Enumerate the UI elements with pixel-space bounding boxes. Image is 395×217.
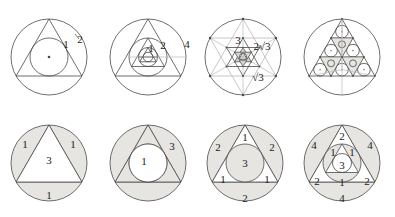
figure-label-circumradius: 2 xyxy=(77,33,83,45)
vertex-dot xyxy=(242,18,244,20)
figure-label-inner-disc: 1 xyxy=(141,155,147,167)
vertex-dot xyxy=(242,94,244,96)
grid-dot xyxy=(319,56,321,58)
center-dot xyxy=(48,56,51,59)
vertex-dot xyxy=(209,37,211,39)
vertex-dot xyxy=(242,75,244,77)
vertex-dot xyxy=(226,66,228,68)
fig-top-3: 32√3√3 xyxy=(205,18,281,96)
figure-label-segment-right: 4 xyxy=(367,139,373,151)
vertex-dot xyxy=(209,75,211,77)
equilateral-triangle xyxy=(16,19,82,76)
grid-dot xyxy=(352,75,354,77)
fig-top-4 xyxy=(304,18,380,95)
figure-sheet: 1212432√3√311313112231122441132124 xyxy=(0,0,395,217)
grid-dot xyxy=(352,37,354,39)
figure-label-side-diagonal: 2√3 xyxy=(253,40,271,52)
sub-center-dot xyxy=(319,69,320,70)
fig-bottom-4: 2441132124 xyxy=(304,125,380,204)
figure-label-segment-bottom: 2 xyxy=(242,192,248,204)
fig-bottom-2: 31 xyxy=(110,125,186,201)
vertex-dot xyxy=(242,47,244,49)
vertex-dot xyxy=(234,51,236,53)
figure-label-corner-top: 1 xyxy=(242,131,248,143)
figure-label-corner-top: 2 xyxy=(339,130,345,142)
vertex-dot xyxy=(258,66,260,68)
grid-dot xyxy=(363,56,365,58)
figure-label-inner-disc: 3 xyxy=(242,157,248,169)
vertex-dot xyxy=(234,61,236,63)
grid-dot xyxy=(330,75,332,77)
figure-label-triangle-interior: 3 xyxy=(46,154,52,166)
figure-label-segment-left: 2 xyxy=(215,141,221,153)
figure-label-corner-bottom-left: 2 xyxy=(314,175,320,187)
grid-dot xyxy=(341,18,343,20)
figure-label-inner-bottom: 1 xyxy=(339,176,345,188)
figure-label-segment-right: 1 xyxy=(70,138,76,150)
grid-dot xyxy=(308,75,310,77)
figure-label-inner-center: 3 xyxy=(339,159,345,171)
figure-label-segment-bottom: 4 xyxy=(339,192,345,204)
vertex-dot xyxy=(226,47,228,49)
figure-label-middle-radius: 2 xyxy=(160,39,166,51)
figure-label-inradius: 1 xyxy=(63,38,69,50)
vertex-dot xyxy=(250,61,252,63)
figure-label-segment-right: 2 xyxy=(269,141,275,153)
sub-center-dot xyxy=(363,69,364,70)
fig-top-1: 12 xyxy=(11,19,87,95)
fig-bottom-3: 1223112 xyxy=(207,125,283,204)
figure-label-side-lower: √3 xyxy=(252,71,264,83)
vertex-dot xyxy=(275,37,277,39)
grid-dot xyxy=(374,75,376,77)
vertex-dot xyxy=(242,37,244,39)
vertex-dot xyxy=(250,51,252,53)
vertex-dot xyxy=(242,66,244,68)
figure-label-side-upper: 3 xyxy=(235,34,241,46)
sub-center-dot xyxy=(352,50,353,51)
grid-dot xyxy=(330,37,332,39)
figure-label-outer-region: 3 xyxy=(169,140,175,152)
figure-label-corner-bottom-right: 1 xyxy=(264,173,270,185)
geometry-figure-sheet: 1212432√3√311313112231122441132124 xyxy=(0,0,395,217)
fig-top-2: 124 xyxy=(110,19,190,95)
fig-bottom-1: 1131 xyxy=(11,125,87,201)
figure-label-corner-bottom-right: 2 xyxy=(364,175,370,187)
figure-label-segment-left: 4 xyxy=(311,139,317,151)
sub-center-dot xyxy=(330,50,331,51)
figure-label-outer-radius: 4 xyxy=(184,38,190,50)
figure-label-inner-top-right: 1 xyxy=(349,146,355,158)
figure-label-inner-radius: 1 xyxy=(148,42,154,54)
figure-label-segment-bottom: 1 xyxy=(46,189,52,201)
vertex-dot xyxy=(275,75,277,77)
inner-disc xyxy=(129,144,167,182)
figure-label-corner-bottom-left: 1 xyxy=(220,173,226,185)
grid-dot xyxy=(341,56,343,58)
figure-label-inner-top-left: 1 xyxy=(330,146,336,158)
figure-label-segment-left: 1 xyxy=(22,138,28,150)
